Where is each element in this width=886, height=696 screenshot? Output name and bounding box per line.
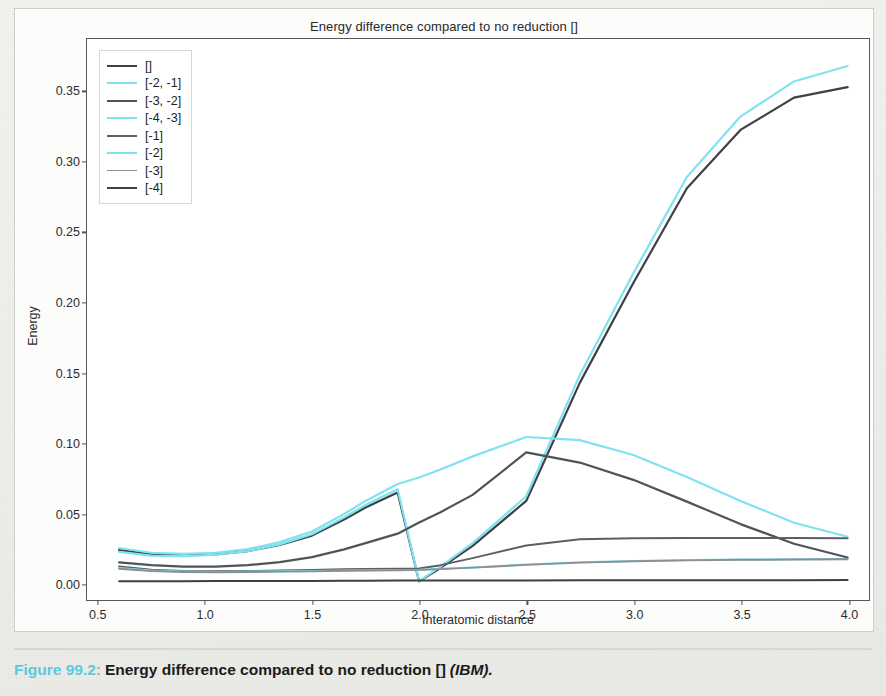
y-tick-mark [82, 302, 87, 303]
x-tick-mark [97, 600, 98, 605]
x-tick-mark [634, 600, 635, 605]
legend-label: [] [145, 59, 152, 73]
figure-caption: Figure 99.2: Energy difference compared … [14, 661, 872, 679]
x-tick-label: 4.0 [841, 608, 858, 622]
legend-swatch-icon [107, 117, 137, 119]
legend-item: [-4] [107, 180, 181, 198]
y-tick-label: 0.15 [56, 367, 80, 381]
x-tick-label: 1.0 [196, 608, 213, 622]
y-tick-mark [82, 232, 87, 233]
y-tick-label: 0.00 [56, 578, 80, 592]
legend-swatch-icon [107, 100, 137, 102]
figure-panel: Energy difference compared to no reducti… [14, 8, 874, 632]
legend-item: [-2] [107, 145, 181, 163]
y-tick-mark [82, 443, 87, 444]
x-tick-mark [527, 600, 528, 605]
y-tick-label: 0.30 [56, 155, 80, 169]
legend-label: [-4, -3] [145, 111, 181, 125]
legend-label: [-2] [145, 146, 163, 160]
legend-swatch-icon [107, 135, 137, 137]
y-tick-label: 0.35 [56, 84, 80, 98]
x-tick-label: 2.5 [519, 608, 536, 622]
x-tick-label: 3.0 [626, 608, 643, 622]
legend-item: [-1] [107, 127, 181, 145]
chart-title: Energy difference compared to no reducti… [15, 19, 873, 34]
x-tick-mark [312, 600, 313, 605]
y-tick-label: 0.10 [56, 437, 80, 451]
series-line [119, 87, 847, 581]
legend-item: [-2, -1] [107, 75, 181, 93]
legend-item: [-4, -3] [107, 110, 181, 128]
caption-divider [14, 648, 872, 650]
chart-legend: [][-2, -1][-3, -2][-4, -3][-1][-2][-3][-… [99, 50, 192, 204]
series-line [119, 66, 847, 581]
x-tick-mark [205, 600, 206, 605]
series-line [119, 580, 847, 581]
y-tick-mark [82, 373, 87, 374]
y-tick-mark [82, 91, 87, 92]
y-tick-mark [82, 514, 87, 515]
x-tick-mark [742, 600, 743, 605]
y-tick-label: 0.25 [56, 225, 80, 239]
series-line [119, 452, 847, 566]
legend-swatch-icon [107, 170, 137, 171]
chart-lines [87, 39, 869, 600]
legend-label: [-3] [145, 164, 163, 178]
x-tick-label: 0.5 [89, 608, 106, 622]
x-tick-label: 2.0 [411, 608, 428, 622]
legend-label: [-1] [145, 129, 163, 143]
y-axis-label: Energy [26, 306, 40, 346]
plot-area: 0.000.050.100.150.200.250.300.35 0.51.01… [86, 38, 870, 601]
y-tick-label: 0.05 [56, 508, 80, 522]
y-tick-mark [82, 584, 87, 585]
legend-item: [] [107, 57, 181, 75]
x-tick-mark [849, 600, 850, 605]
legend-swatch-icon [107, 187, 137, 189]
legend-swatch-icon [107, 82, 137, 84]
legend-item: [-3] [107, 162, 181, 180]
y-tick-label: 0.20 [56, 296, 80, 310]
legend-item: [-3, -2] [107, 92, 181, 110]
x-tick-label: 1.5 [304, 608, 321, 622]
figure-caption-source: (IBM). [450, 661, 493, 678]
x-tick-label: 3.5 [733, 608, 750, 622]
legend-label: [-2, -1] [145, 76, 181, 90]
legend-label: [-3, -2] [145, 94, 181, 108]
legend-label: [-4] [145, 181, 163, 195]
figure-number: Figure 99.2: [14, 661, 101, 678]
x-tick-mark [419, 600, 420, 605]
y-tick-mark [82, 161, 87, 162]
legend-swatch-icon [107, 152, 137, 154]
figure-caption-text: Energy difference compared to no reducti… [105, 661, 446, 678]
legend-swatch-icon [107, 65, 137, 67]
